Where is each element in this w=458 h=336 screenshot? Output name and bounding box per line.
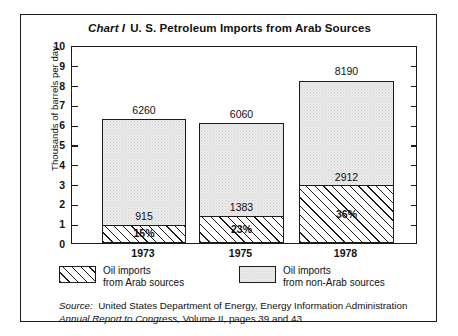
legend-label-non-arab-line1: Oil imports [283, 265, 385, 277]
y-axis-tick-right-6 [411, 126, 417, 127]
x-axis-tick-labels: 197319751978 [71, 248, 417, 262]
plot-area: 626091515%6060138323%8190291236% [71, 46, 417, 244]
legend-label-non-arab-line2: from non-Arab sources [283, 277, 385, 289]
legend-swatch-non-arab-stipple-icon [239, 266, 276, 283]
y-axis-tick-right-9 [411, 66, 417, 67]
y-axis-tick-right-5 [411, 145, 417, 146]
x-axis-label-1975: 1975 [198, 248, 283, 259]
source-note-label: Source: [59, 300, 93, 311]
source-note-line1-text: United States Department of Energy, Ener… [98, 300, 407, 311]
y-axis-label-1: 1 [49, 219, 65, 230]
y-axis-tick-right-2 [411, 205, 417, 206]
y-axis-tick-5 [72, 145, 78, 146]
x-axis-label-1973: 1973 [101, 248, 185, 259]
chart-title: Chart IU. S. Petroleum Imports from Arab… [21, 22, 438, 34]
y-axis-label-0: 0 [49, 239, 65, 250]
y-axis-label-5: 5 [49, 140, 65, 151]
y-axis-tick-right-7 [411, 106, 417, 107]
y-axis-tick-right-3 [411, 185, 417, 186]
legend-swatch-arab-hatch-icon [59, 266, 96, 283]
y-axis-tick-7 [72, 106, 78, 107]
y-axis-tick-1 [72, 225, 78, 226]
y-axis-tick-8 [72, 86, 78, 87]
bar-group-1978: 8190291236% [299, 45, 394, 243]
bar-total-label-1978: 8190 [299, 66, 394, 77]
y-axis-tick-2 [72, 205, 78, 206]
bar-group-1975: 6060138323% [199, 45, 284, 243]
y-axis-tick-3 [72, 185, 78, 186]
y-axis-label-7: 7 [49, 100, 65, 111]
x-axis-label-1978: 1978 [298, 248, 393, 259]
y-axis-label-10: 10 [49, 41, 65, 52]
bar-total-label-1975: 6060 [199, 109, 284, 120]
y-axis-tick-right-8 [411, 86, 417, 87]
y-axis-label-6: 6 [49, 120, 65, 131]
bar-arab-value-label-1975: 1383 [199, 202, 284, 213]
source-note: Source: United States Department of Ener… [59, 300, 419, 325]
chart-legend: Oil imports from Arab sources Oil import… [59, 265, 399, 291]
y-axis-tick-labels: 109876543210 [47, 46, 65, 244]
y-axis-label-4: 4 [49, 160, 65, 171]
y-axis-label-2: 2 [49, 199, 65, 210]
legend-item-non-arab: Oil imports from non-Arab sources [239, 265, 385, 288]
bar-percent-label-1975: 23% [199, 224, 284, 235]
y-axis-label-9: 9 [49, 61, 65, 72]
legend-label-non-arab: Oil imports from non-Arab sources [283, 265, 385, 288]
y-axis-tick-right-1 [411, 225, 417, 226]
y-axis-tick-right-4 [411, 165, 417, 166]
bar-arab-value-label-1978: 2912 [299, 172, 394, 183]
source-note-line1: Source: United States Department of Ener… [59, 300, 419, 313]
chart-figure-frame: Chart IU. S. Petroleum Imports from Arab… [20, 14, 437, 322]
source-note-line2: Annual Report to Congress, Volume II, pa… [59, 313, 419, 326]
legend-label-arab: Oil imports from Arab sources [103, 265, 184, 288]
y-axis-tick-6 [72, 126, 78, 127]
y-axis-tick-4 [72, 165, 78, 166]
bar-percent-label-1973: 15% [102, 228, 186, 239]
bar-percent-label-1978: 36% [299, 209, 394, 220]
bar-arab-value-label-1973: 915 [102, 211, 186, 222]
bar-group-1973: 626091515% [102, 45, 186, 243]
source-note-report-title: Annual Report to Congress, [59, 313, 180, 324]
y-axis-tick-9 [72, 66, 78, 67]
chart-number-label: Chart I [88, 22, 125, 34]
y-axis-label-8: 8 [49, 80, 65, 91]
legend-label-arab-line2: from Arab sources [103, 277, 184, 289]
chart-title-text: U. S. Petroleum Imports from Arab Source… [130, 22, 371, 34]
source-note-line2-rest: Volume II, pages 39 and 43. [180, 313, 305, 324]
legend-label-arab-line1: Oil imports [103, 265, 184, 277]
bar-total-label-1973: 6260 [102, 105, 186, 116]
legend-item-arab: Oil imports from Arab sources [59, 265, 184, 288]
y-axis-label-3: 3 [49, 179, 65, 190]
